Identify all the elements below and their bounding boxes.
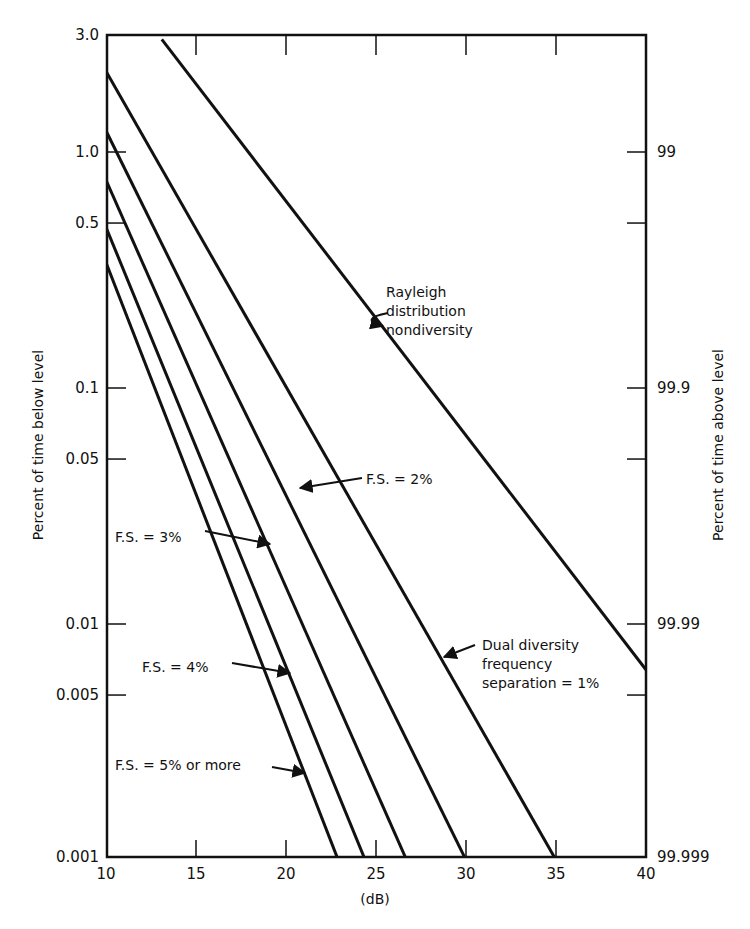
y-tick-label: 0.001 [56, 848, 99, 866]
y-right-tick-label: 99 [657, 143, 676, 161]
y-tick-label: 0.1 [75, 379, 99, 397]
y-axis-right-title: Percent of time above level [710, 349, 726, 541]
x-tick-label: 30 [456, 865, 475, 883]
x-tick-label: 40 [636, 865, 655, 883]
y-tick-label: 0.05 [66, 450, 99, 468]
x-tick-label: 35 [546, 865, 565, 883]
y-tick-label: 0.01 [66, 615, 99, 633]
data-series [106, 39, 646, 860]
x-axis-ticks: 10152025303540 [96, 35, 655, 883]
x-axis-title: (dB) [360, 891, 389, 907]
x-tick-label: 10 [96, 865, 115, 883]
y-axis-left-title: Percent of time below level [30, 350, 46, 540]
annotation-label: Rayleigh [386, 284, 446, 300]
annotation-label: distribution [386, 303, 466, 319]
y-right-tick-label: 99.99 [657, 615, 700, 633]
x-tick-label: 15 [186, 865, 205, 883]
annotation-label: Dual diversity [482, 637, 579, 653]
y-right-tick-label: 99.999 [657, 848, 710, 866]
annotation-label: frequency [482, 656, 552, 672]
annotations: RayleighdistributionnondiversityF.S. = 2… [115, 284, 599, 773]
annotation-arrow [444, 645, 475, 657]
y-tick-label: 0.5 [75, 214, 99, 232]
annotation-label: separation = 1% [482, 675, 599, 691]
y-tick-label: 3.0 [75, 26, 99, 44]
annotation-label: nondiversity [386, 322, 473, 338]
chart: 10152025303540 3.01.00.50.10.050.010.005… [0, 0, 750, 929]
annotation-arrow [300, 478, 362, 488]
x-tick-label: 20 [276, 865, 295, 883]
series-line [162, 39, 646, 669]
annotation-label: F.S. = 5% or more [115, 757, 241, 773]
annotation-label: F.S. = 4% [142, 659, 208, 675]
annotation-arrow [272, 767, 305, 773]
y-tick-label: 0.005 [56, 686, 99, 704]
x-tick-label: 25 [366, 865, 385, 883]
y-axis-right-ticks: 9999.999.9999.999 [627, 143, 710, 866]
annotation-label: F.S. = 2% [366, 471, 432, 487]
y-right-tick-label: 99.9 [657, 379, 690, 397]
y-tick-label: 1.0 [75, 143, 99, 161]
series-line [106, 131, 466, 860]
annotation-label: F.S. = 3% [115, 529, 181, 545]
plot-frame [107, 35, 646, 857]
